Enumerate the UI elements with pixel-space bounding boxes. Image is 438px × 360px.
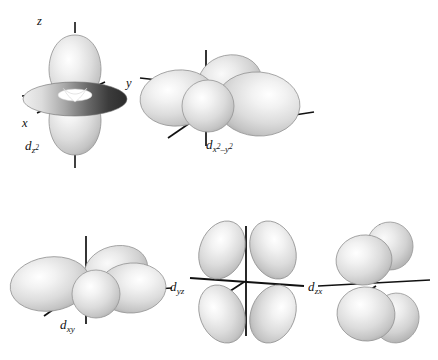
orbital-label-dxy: dxy xyxy=(60,318,75,334)
orbital-label-dz2-sup: 2 xyxy=(35,142,39,151)
dyz-lobe-upper-right xyxy=(241,214,304,286)
orbital-label-dyz-d: d xyxy=(170,279,177,294)
orbital-dxy: dxy xyxy=(12,232,182,352)
orbital-label-dz2-sub: z2 xyxy=(32,145,39,155)
orbital-dyz-graphic xyxy=(178,218,318,346)
orbital-label-dxy-sub: xy xyxy=(67,324,75,334)
orbital-label-dxy-d: d xyxy=(60,317,67,332)
dyz-lobe-lower-left xyxy=(190,278,253,350)
orbital-dx2y2: dx2–y2 xyxy=(138,42,338,172)
orbital-label-dz2-d: d xyxy=(25,138,32,153)
dxy-lobe-front xyxy=(72,270,120,318)
dyz-lobe-lower-right xyxy=(241,278,304,350)
orbital-dyz: dyz xyxy=(178,218,318,346)
orbital-dzx: dzx xyxy=(318,218,438,353)
orbital-label-dx2y2-d: d xyxy=(206,137,213,152)
dx2y2-lobe-front xyxy=(182,80,234,132)
orbital-dx2y2-graphic xyxy=(138,42,338,172)
orbital-label-dyz-sub: yz xyxy=(177,286,185,296)
orbital-label-dx2y2: dx2–y2 xyxy=(206,138,233,154)
d-orbital-diagram: z y x dz2 dx2–y2 xyxy=(0,0,438,360)
axis-label-y: y xyxy=(126,77,132,90)
orbital-label-dzx-sub: zx xyxy=(315,286,323,296)
orbital-dxy-graphic xyxy=(12,232,182,352)
orbital-label-dzx-d: d xyxy=(308,279,315,294)
orbital-label-dyz: dyz xyxy=(170,280,184,296)
orbital-dzx-graphic xyxy=(318,218,438,353)
dyz-lobe-upper-left xyxy=(190,214,253,286)
axis-label-x: x xyxy=(22,117,28,130)
orbital-label-dz2: dz2 xyxy=(25,139,39,155)
orbital-label-dzx: dzx xyxy=(308,280,322,296)
axis-label-z: z xyxy=(37,15,42,28)
dyz-axis-horizontal xyxy=(190,278,304,286)
orbital-label-dx2y2-sub: x2–y2 xyxy=(213,144,233,154)
